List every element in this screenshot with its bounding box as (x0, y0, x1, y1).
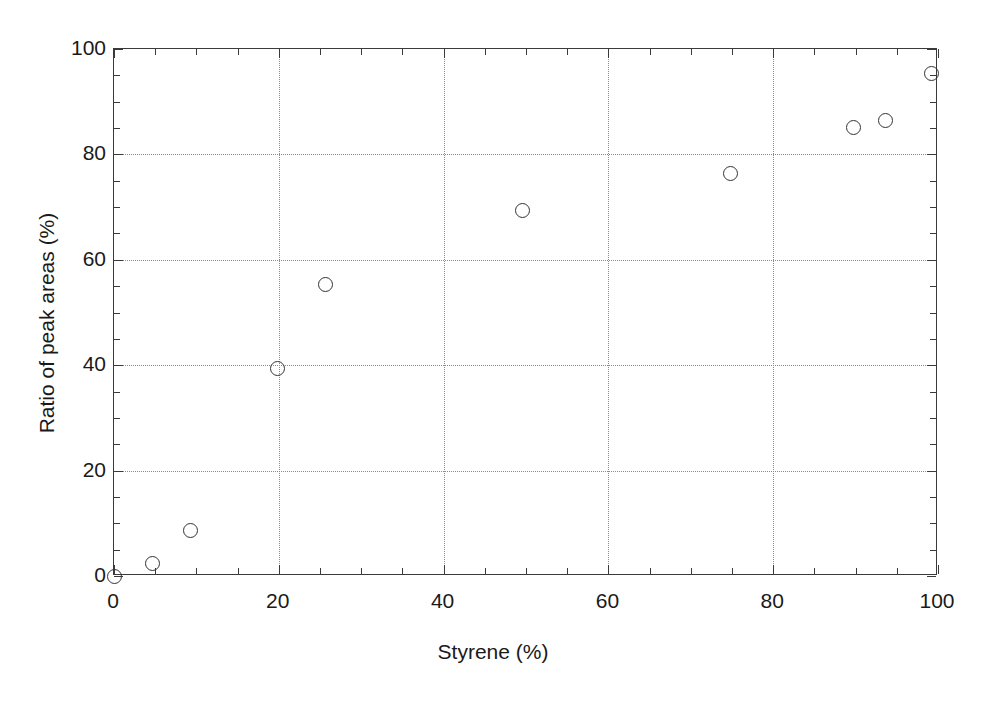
data-point-marker (878, 113, 893, 128)
y-axis-tick (114, 181, 120, 182)
x-axis-tick-top (444, 49, 445, 58)
x-axis-tick-top (732, 49, 733, 55)
y-axis-tick-right (930, 444, 936, 445)
x-axis-tick-top (279, 49, 280, 58)
gridline-horizontal (114, 471, 936, 472)
y-axis-tick (114, 471, 123, 472)
x-axis-tick-top (526, 49, 527, 55)
y-axis-tick-label: 100 (16, 36, 106, 60)
y-axis-tick-label: 0 (16, 563, 106, 587)
plot-area (113, 48, 937, 575)
x-axis-label: Styrene (%) (0, 640, 986, 664)
x-axis-tick-top (155, 49, 156, 55)
y-axis-tick (114, 233, 120, 234)
x-axis-tick (856, 568, 857, 574)
y-axis-tick-right (927, 154, 936, 155)
x-axis-tick-top (114, 49, 115, 58)
y-axis-tick-right (930, 523, 936, 524)
y-axis-tick-right (927, 576, 936, 577)
y-axis-tick (114, 497, 120, 498)
data-point-marker (723, 166, 738, 181)
data-point-marker (183, 523, 198, 538)
y-axis-tick (114, 339, 120, 340)
y-axis-tick (114, 49, 123, 50)
gridline-horizontal (114, 260, 936, 261)
y-axis-tick-right (930, 286, 936, 287)
x-axis-tick-top (196, 49, 197, 55)
y-axis-tick (114, 444, 120, 445)
y-axis-tick-right (930, 207, 936, 208)
gridline-vertical (444, 49, 445, 574)
y-axis-tick-right (930, 181, 936, 182)
x-axis-tick (526, 568, 527, 574)
x-axis-tick (691, 568, 692, 574)
data-point-marker (107, 569, 122, 584)
x-axis-tick-top (567, 49, 568, 55)
y-axis-tick (114, 286, 120, 287)
y-axis-tick-right (930, 339, 936, 340)
x-axis-tick-label: 80 (761, 589, 784, 613)
data-point-marker (924, 66, 939, 81)
y-axis-tick (114, 207, 120, 208)
gridline-vertical (608, 49, 609, 574)
gridline-vertical (773, 49, 774, 574)
data-point-marker (270, 361, 285, 376)
gridline-horizontal (114, 365, 936, 366)
scatter-plot-figure: Styrene (%) Ratio of peak areas (%) 0204… (0, 0, 986, 703)
x-axis-tick (402, 568, 403, 574)
x-axis-tick-top (938, 49, 939, 58)
x-axis-tick-top (814, 49, 815, 55)
x-axis-tick (196, 568, 197, 574)
y-axis-tick-label: 80 (16, 141, 106, 165)
x-axis-tick (485, 568, 486, 574)
x-axis-tick-label: 60 (596, 589, 619, 613)
y-axis-tick (114, 418, 120, 419)
y-axis-tick (114, 102, 120, 103)
x-axis-tick (732, 568, 733, 574)
x-axis-tick-top (650, 49, 651, 55)
y-axis-tick (114, 154, 123, 155)
y-axis-tick-label: 20 (16, 458, 106, 482)
x-axis-tick-top (856, 49, 857, 55)
y-axis-tick-label: 40 (16, 352, 106, 376)
x-axis-tick (361, 568, 362, 574)
x-axis-tick-top (320, 49, 321, 55)
x-axis-tick-top (773, 49, 774, 58)
x-axis-tick-top (361, 49, 362, 55)
y-axis-tick (114, 313, 120, 314)
y-axis-tick-right (930, 418, 936, 419)
x-axis-tick-top (897, 49, 898, 55)
x-axis-tick-label: 40 (431, 589, 454, 613)
x-axis-tick (608, 565, 609, 574)
x-axis-tick (897, 568, 898, 574)
x-axis-tick-top (402, 49, 403, 55)
data-point-marker (515, 203, 530, 218)
data-point-marker (846, 120, 861, 135)
y-axis-tick-right (930, 550, 936, 551)
x-axis-tick (238, 568, 239, 574)
x-axis-tick-top (485, 49, 486, 55)
x-axis-tick-label: 100 (919, 589, 954, 613)
y-axis-tick (114, 365, 123, 366)
x-axis-tick-label: 0 (107, 589, 119, 613)
data-point-marker (318, 277, 333, 292)
x-axis-tick-top (608, 49, 609, 58)
y-axis-tick-right (927, 365, 936, 366)
y-axis-tick-right (930, 102, 936, 103)
y-axis-label: Ratio of peak areas (%) (35, 173, 59, 473)
y-axis-tick-right (927, 260, 936, 261)
y-axis-tick-right (927, 49, 936, 50)
y-axis-tick-right (930, 128, 936, 129)
x-axis-tick (279, 565, 280, 574)
x-axis-tick-top (691, 49, 692, 55)
y-axis-tick-right (927, 471, 936, 472)
y-axis-tick-right (930, 497, 936, 498)
gridline-vertical (279, 49, 280, 574)
y-axis-tick (114, 523, 120, 524)
y-axis-tick (114, 128, 120, 129)
y-axis-tick (114, 260, 123, 261)
x-axis-tick (444, 565, 445, 574)
x-axis-tick-label: 20 (266, 589, 289, 613)
data-point-marker (145, 556, 160, 571)
x-axis-tick (320, 568, 321, 574)
